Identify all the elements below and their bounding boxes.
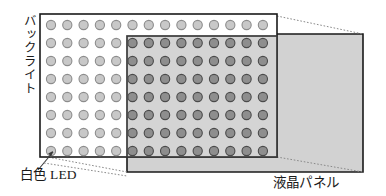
white-led bbox=[95, 92, 104, 101]
white-led bbox=[112, 20, 121, 29]
white-led bbox=[209, 110, 218, 119]
white-led bbox=[193, 146, 202, 155]
white-led bbox=[193, 38, 202, 47]
white-led bbox=[128, 38, 137, 47]
white-led bbox=[193, 20, 202, 29]
white-led bbox=[46, 38, 55, 47]
white-led bbox=[95, 128, 104, 137]
white-led bbox=[242, 110, 251, 119]
white-led bbox=[193, 56, 202, 65]
white-led bbox=[144, 74, 153, 83]
white-led bbox=[63, 92, 72, 101]
white-led bbox=[258, 38, 267, 47]
white-led bbox=[226, 56, 235, 65]
white-led bbox=[258, 74, 267, 83]
white-led bbox=[161, 128, 170, 137]
white-led bbox=[46, 92, 55, 101]
white-led bbox=[112, 74, 121, 83]
white-led bbox=[63, 38, 72, 47]
white-led bbox=[258, 110, 267, 119]
white-led bbox=[79, 38, 88, 47]
white-led bbox=[177, 20, 186, 29]
white-led bbox=[209, 56, 218, 65]
white-led bbox=[63, 56, 72, 65]
white-led bbox=[63, 20, 72, 29]
white-led bbox=[258, 56, 267, 65]
white-led bbox=[209, 128, 218, 137]
white-led bbox=[79, 92, 88, 101]
white-led bbox=[79, 146, 88, 155]
white-led bbox=[177, 38, 186, 47]
white-led bbox=[193, 92, 202, 101]
white-led bbox=[161, 92, 170, 101]
white-led bbox=[161, 20, 170, 29]
white-led bbox=[242, 92, 251, 101]
white-led bbox=[95, 38, 104, 47]
lcd-panel-label: 液晶パネル bbox=[273, 176, 339, 190]
white-led bbox=[242, 20, 251, 29]
white-led bbox=[226, 38, 235, 47]
white-led bbox=[242, 74, 251, 83]
white-led bbox=[226, 20, 235, 29]
white-led bbox=[177, 146, 186, 155]
white-led bbox=[46, 110, 55, 119]
white-led bbox=[209, 74, 218, 83]
white-led bbox=[258, 20, 267, 29]
white-led bbox=[112, 92, 121, 101]
white-led bbox=[128, 146, 137, 155]
white-led bbox=[128, 110, 137, 119]
white-led bbox=[193, 74, 202, 83]
white-led bbox=[112, 128, 121, 137]
white-led bbox=[226, 128, 235, 137]
white-led bbox=[46, 128, 55, 137]
white-led bbox=[193, 128, 202, 137]
white-led bbox=[242, 146, 251, 155]
white-led bbox=[128, 20, 137, 29]
white-led bbox=[79, 110, 88, 119]
white-led bbox=[193, 110, 202, 119]
white-led bbox=[144, 128, 153, 137]
white-led-label: 白色 LED bbox=[20, 168, 77, 182]
white-led bbox=[112, 56, 121, 65]
white-led bbox=[144, 92, 153, 101]
white-led bbox=[258, 92, 267, 101]
white-led bbox=[112, 146, 121, 155]
white-led bbox=[161, 146, 170, 155]
white-led bbox=[144, 56, 153, 65]
white-led bbox=[79, 56, 88, 65]
white-led bbox=[144, 146, 153, 155]
white-led bbox=[242, 38, 251, 47]
white-led bbox=[128, 128, 137, 137]
white-led bbox=[242, 56, 251, 65]
white-led bbox=[112, 38, 121, 47]
white-led bbox=[46, 20, 55, 29]
top-right-projection-line bbox=[277, 16, 363, 34]
white-led bbox=[144, 110, 153, 119]
white-led bbox=[128, 92, 137, 101]
white-led bbox=[161, 56, 170, 65]
white-led bbox=[226, 110, 235, 119]
white-led bbox=[63, 128, 72, 137]
white-led bbox=[128, 56, 137, 65]
white-led bbox=[209, 20, 218, 29]
led-backlight-diagram: バックライト 白色 LED 液晶パネル bbox=[0, 0, 386, 196]
white-led bbox=[144, 38, 153, 47]
backlight-label: バックライト bbox=[16, 14, 34, 95]
white-led bbox=[95, 74, 104, 83]
white-led bbox=[95, 56, 104, 65]
white-led bbox=[46, 74, 55, 83]
white-led bbox=[79, 74, 88, 83]
white-led bbox=[177, 128, 186, 137]
white-led bbox=[209, 92, 218, 101]
white-led bbox=[63, 146, 72, 155]
white-led bbox=[177, 92, 186, 101]
white-led bbox=[177, 56, 186, 65]
white-led bbox=[226, 74, 235, 83]
white-led bbox=[46, 56, 55, 65]
white-led bbox=[128, 74, 137, 83]
white-led bbox=[63, 110, 72, 119]
white-led bbox=[161, 38, 170, 47]
white-led bbox=[112, 110, 121, 119]
white-led bbox=[177, 74, 186, 83]
white-led bbox=[161, 110, 170, 119]
